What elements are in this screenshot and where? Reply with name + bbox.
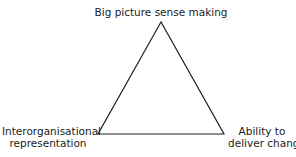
triangle-shape (98, 22, 224, 134)
bottom-left-vertex-label: Interorganisational representation (2, 125, 94, 149)
top-label-text: Big picture sense making (95, 6, 228, 18)
top-vertex-label: Big picture sense making (0, 6, 296, 18)
bottom-right-vertex-label: Ability to deliver change (228, 125, 296, 149)
left-label-line2: representation (2, 137, 94, 149)
right-label-line1: Ability to (228, 125, 296, 137)
left-label-line1: Interorganisational (2, 125, 94, 137)
right-label-line2: deliver change (228, 137, 296, 149)
